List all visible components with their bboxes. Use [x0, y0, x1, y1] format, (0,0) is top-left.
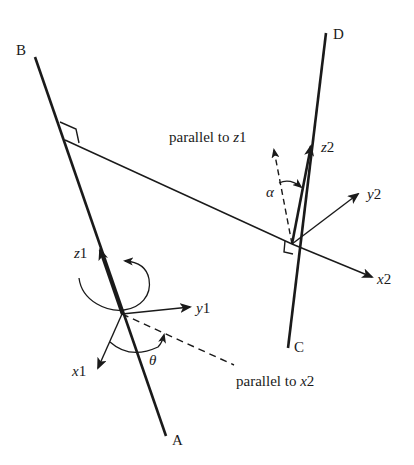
- point-d-label: D: [333, 26, 344, 42]
- parallel-to-z1-dashed-arrow: [274, 150, 292, 244]
- x2-label: x2: [376, 271, 391, 287]
- link-frames-diagram: B A D C parallel to z1 parallel to x2 z1…: [0, 0, 414, 465]
- joint-axis-1-line: [35, 57, 166, 436]
- parallel-to-x2-label: parallel to x2: [236, 373, 314, 389]
- z2-label: z2: [320, 139, 334, 155]
- x1-axis-arrow: [98, 314, 122, 368]
- theta-label: θ: [149, 352, 157, 368]
- y2-label: y2: [365, 186, 381, 202]
- point-a-label: A: [172, 432, 183, 448]
- parallel-to-z1-label: parallel to z1: [169, 129, 246, 145]
- x2-axis-arrow: [292, 244, 372, 277]
- joint-axis-2-line: [288, 33, 326, 348]
- alpha-label: α: [266, 184, 275, 200]
- common-normal-line: [65, 140, 292, 244]
- z1-label: z1: [73, 245, 87, 261]
- z1-axis-arrow: [100, 250, 122, 314]
- y1-label: y1: [194, 300, 210, 316]
- x1-label: x1: [71, 363, 86, 379]
- point-b-label: B: [16, 42, 26, 58]
- alpha-angle-arc: [279, 181, 301, 187]
- y2-axis-arrow: [292, 194, 358, 244]
- point-c-label: C: [294, 339, 304, 355]
